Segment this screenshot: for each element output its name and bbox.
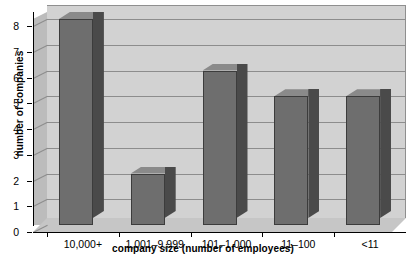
bar-front-face [274,96,308,225]
bar-side-face [93,12,104,218]
y-axis-tick-label: 4 [13,124,19,135]
x-axis-category-label: <11 [362,239,379,250]
y-axis-line [33,12,34,226]
gridline-side [33,26,48,34]
x-axis-tick [119,232,120,237]
y-axis-tick: 5 [27,103,32,104]
y-axis-tick-label: 3 [13,150,19,161]
y-axis-tick: 7 [27,52,32,53]
gridline-side [33,181,48,189]
plot-area: 012345678 10,000+1,001–9,999101–1,00011–… [33,5,406,237]
y-axis-tick-label: 8 [13,21,19,32]
bar-chart: number of companies company size (number… [0,0,406,260]
gridline-side [33,155,48,163]
x-axis-category-label: 1,001–9,999 [125,239,183,250]
y-axis-tick-label: 1 [13,201,19,212]
bar-side-face [380,89,391,218]
x-axis-category-label: 10,000+ [64,239,102,250]
y-axis-tick: 2 [27,181,32,182]
y-axis-tick-label: 0 [13,227,19,238]
y-axis-tick-label: 5 [13,98,19,109]
bar-side-face [237,64,248,219]
y-axis-tick: 4 [27,129,32,130]
bar [59,19,93,225]
gridline-side [33,232,48,240]
y-axis-tick: 8 [27,26,32,27]
bar-front-face [346,96,380,225]
bar-front-face [203,71,237,226]
x-axis-category-label: 11–100 [281,239,315,250]
y-axis-tick-label: 7 [13,47,19,58]
y-axis-tick: 0 [27,232,32,233]
x-axis-tick [334,232,335,237]
bar-front-face [59,19,93,225]
bar [274,96,308,225]
x-axis-tick [262,232,263,237]
plot-left-wall-edge [33,12,48,226]
gridline-side [33,52,48,60]
y-axis-tick: 3 [27,155,32,156]
gridline-side [33,129,48,137]
y-axis-tick-label: 6 [13,72,19,83]
x-axis-tick [47,232,48,237]
x-axis-tick [191,232,192,237]
bar [346,96,380,225]
bar [203,71,237,226]
bar-side-face [308,89,319,218]
gridline-side [33,103,48,111]
y-axis-tick: 1 [27,206,32,207]
y-axis-tick-label: 2 [13,175,19,186]
y-axis-tick: 6 [27,78,32,79]
x-axis-line [33,232,406,233]
gridline-side [33,78,48,86]
bar-side-face [165,167,176,219]
gridline-side [33,206,48,214]
bar-front-face [131,174,165,226]
x-axis-category-label: 101–1,000 [202,239,252,250]
bar [131,174,165,226]
